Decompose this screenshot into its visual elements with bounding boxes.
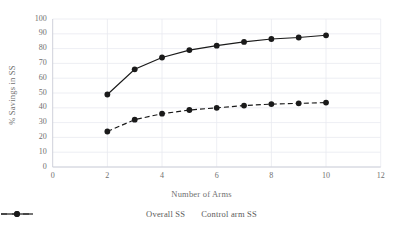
legend-label: Control arm SS <box>201 209 257 219</box>
y-tick-label: 10 <box>27 147 47 156</box>
y-tick-label: 70 <box>27 58 47 67</box>
x-axis-title: Number of Arms <box>0 189 403 199</box>
y-tick-label: 80 <box>27 43 47 52</box>
legend-item[interactable]: Control arm SS <box>201 209 257 219</box>
x-tick-label: 4 <box>152 171 172 180</box>
y-tick-label: 0 <box>27 162 47 171</box>
legend-swatch-icon <box>0 209 34 219</box>
y-tick-label: 20 <box>27 132 47 141</box>
chart-legend: Overall SSControl arm SS <box>0 209 403 219</box>
gridlines <box>53 19 381 167</box>
y-tick-label: 40 <box>27 102 47 111</box>
y-tick-label: 60 <box>27 73 47 82</box>
x-tick-label: 8 <box>261 171 281 180</box>
x-tick-label: 6 <box>207 171 227 180</box>
x-tick-label: 2 <box>97 171 117 180</box>
legend-label: Overall SS <box>146 209 185 219</box>
plot-area <box>0 0 403 238</box>
y-tick-label: 90 <box>27 28 47 37</box>
y-tick-label: 50 <box>27 88 47 97</box>
legend-item[interactable]: Overall SS <box>146 209 185 219</box>
x-tick-label: 0 <box>43 171 63 180</box>
x-tick-label: 10 <box>316 171 336 180</box>
x-tick-label: 12 <box>371 171 391 180</box>
y-tick-label: 30 <box>27 117 47 126</box>
y-tick-label: 100 <box>27 14 47 23</box>
y-axis-title: % Savings in SS <box>7 55 17 135</box>
line-chart: % Savings in SS Number of Arms 010203040… <box>0 0 403 238</box>
